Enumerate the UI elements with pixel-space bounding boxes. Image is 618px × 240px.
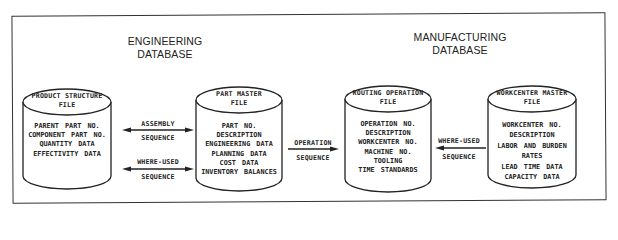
engineering-database-title: ENGINEERING DATABASE — [110, 35, 220, 61]
file-title-line: ROUTING OPERATION — [343, 89, 433, 98]
arrow-left-icon — [434, 144, 486, 152]
file-title-line: PRODUCT STRUCTURE — [21, 92, 113, 101]
field: EFFECTIVITY DATA — [21, 150, 113, 159]
file-fields: PART NO. DESCRIPTION ENGINEERING DATA PL… — [194, 122, 284, 177]
file-title-line: FILE — [486, 98, 578, 107]
field: ENGINEERING DATA — [194, 140, 284, 149]
field: CAPACITY DATA — [486, 172, 578, 182]
field: OPERATION NO. — [343, 120, 433, 129]
field: QUANTITY DATA — [21, 140, 113, 149]
field: TIME STANDARDS — [343, 166, 433, 175]
field: RATES — [486, 151, 578, 161]
file-title: PRODUCT STRUCTURE FILE — [21, 92, 113, 110]
field: DESCRIPTION — [486, 130, 578, 140]
workcenter-master-file: WORKCENTER MASTER FILE WORKCENTER NO. DE… — [486, 85, 578, 191]
part-master-file: PART MASTER FILE PART NO. DESCRIPTION EN… — [194, 86, 284, 194]
file-title: PART MASTER FILE — [194, 90, 284, 108]
section-title-line: DATABASE — [405, 44, 515, 57]
file-title-line: WORKCENTER MASTER — [486, 89, 578, 98]
field: MACHINE NO. — [343, 148, 433, 157]
sequence-label: SEQUENCE — [122, 134, 194, 142]
file-title-line: PART MASTER — [194, 90, 284, 99]
product-structure-file: PRODUCT STRUCTURE FILE PARENT PART NO. C… — [21, 88, 113, 192]
field: WORKCENTER NO. — [343, 138, 433, 147]
field: PART NO. — [194, 122, 284, 131]
file-title-line: FILE — [194, 99, 284, 108]
arrow-right-icon — [288, 145, 340, 153]
field: DESCRIPTION — [194, 131, 284, 140]
field: INVENTORY BALANCES — [194, 168, 284, 177]
section-title-line: DATABASE — [110, 48, 220, 61]
file-fields: OPERATION NO. DESCRIPTION WORKCENTER NO.… — [343, 120, 433, 175]
field: LABOR AND BURDEN — [486, 141, 578, 151]
field: TOOLING — [343, 157, 433, 166]
section-title-line: MANUFACTURING — [405, 31, 515, 44]
field: COST DATA — [194, 159, 284, 168]
file-fields: PARENT PART NO. COMPONENT PART NO. QUANT… — [21, 122, 113, 159]
double-arrow-icon — [120, 126, 196, 134]
section-title-line: ENGINEERING — [110, 35, 220, 48]
field: WORKCENTER NO. — [486, 120, 578, 130]
field: LEAD TIME DATA — [486, 162, 578, 172]
field: DESCRIPTION — [343, 129, 433, 138]
file-title-line: FILE — [343, 98, 433, 107]
sequence-label: SEQUENCE — [122, 173, 194, 181]
field: PLANNING DATA — [194, 150, 284, 159]
field: PARENT PART NO. — [21, 122, 113, 131]
routing-operation-file: ROUTING OPERATION FILE OPERATION NO. DES… — [343, 85, 433, 195]
file-title: ROUTING OPERATION FILE — [343, 89, 433, 107]
manufacturing-database-title: MANUFACTURING DATABASE — [405, 31, 515, 57]
file-fields: WORKCENTER NO. DESCRIPTION LABOR AND BUR… — [486, 120, 578, 182]
field: COMPONENT PART NO. — [21, 131, 113, 140]
double-arrow-icon — [120, 165, 196, 173]
sequence-label: SEQUENCE — [432, 153, 486, 161]
file-title: WORKCENTER MASTER FILE — [486, 89, 578, 107]
file-title-line: FILE — [21, 101, 113, 110]
sequence-label: SEQUENCE — [288, 154, 338, 162]
